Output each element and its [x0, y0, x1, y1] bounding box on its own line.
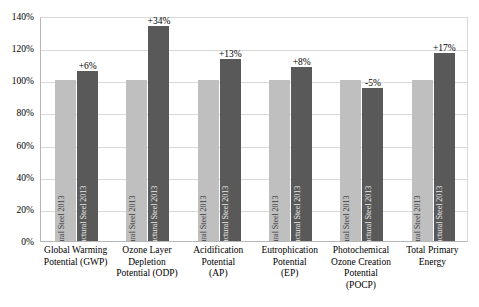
- x-category-label: PhotochemicalOzone CreationPotential(POC…: [321, 245, 400, 291]
- x-category-label-line: Energy: [393, 257, 472, 269]
- y-tick-label: 60%: [17, 141, 34, 151]
- bar-epd-structural-steel[interactable]: EPD Structural Steel 2013: [126, 80, 147, 241]
- bar-group: EPD Structural Steel 2013EPD HDG Structu…: [112, 18, 183, 241]
- x-category-label-line: Eutrophication: [250, 245, 329, 257]
- x-category-label-line: Potential: [179, 257, 258, 269]
- bar-epd-hdg-structural-steel[interactable]: EPD HDG Structural Steel 2013: [77, 71, 98, 241]
- bar-epd-structural-steel[interactable]: EPD Structural Steel 2013: [55, 80, 76, 241]
- x-category-label-line: Ozone Layer: [107, 245, 186, 257]
- bar-epd-hdg-structural-steel[interactable]: EPD HDG Structural Steel 2013: [148, 26, 169, 241]
- bar-epd-structural-steel[interactable]: EPD Structural Steel 2013: [269, 80, 290, 241]
- bar-series-label: EPD HDG Structural Steel 2013: [150, 185, 159, 241]
- x-category-label-line: Total Primary: [393, 245, 472, 257]
- x-category-label-line: (AP): [179, 268, 258, 280]
- bar-series-label: EPD HDG Structural Steel 2013: [222, 185, 231, 241]
- x-category-label: Ozone LayerDepletionPotential (ODP): [107, 245, 186, 280]
- y-tick-label: 20%: [17, 205, 34, 215]
- x-category-label: AcidificationPotential(AP): [179, 245, 258, 280]
- x-category-label-line: Photochemical: [321, 245, 400, 257]
- x-category-label-line: Potential (GWP): [36, 257, 115, 269]
- bar-epd-hdg-structural-steel[interactable]: EPD HDG Structural Steel 2013: [220, 59, 241, 241]
- x-category-label: Total PrimaryEnergy: [393, 245, 472, 268]
- bar-series-label: EPD Structural Steel 2013: [57, 195, 66, 241]
- x-category-label-line: Depletion: [107, 257, 186, 269]
- bar-epd-hdg-structural-steel[interactable]: EPD HDG Structural Steel 2013: [434, 53, 455, 241]
- y-tick-label: 0%: [21, 237, 34, 247]
- bar-data-label: -5%: [365, 78, 381, 88]
- bar-series-label: EPD HDG Structural Steel 2013: [436, 185, 445, 241]
- x-category-label-line: (POCP): [321, 280, 400, 292]
- y-tick-label: 100%: [12, 76, 34, 86]
- bar-epd-hdg-structural-steel[interactable]: EPD HDG Structural Steel 2013: [362, 88, 383, 241]
- bar-data-label: +17%: [433, 43, 456, 53]
- plot-area: EPD Structural Steel 2013EPD HDG Structu…: [40, 17, 468, 242]
- x-category-label-line: Potential: [321, 268, 400, 280]
- y-tick-label: 140%: [12, 12, 34, 22]
- bar-series-label: EPD Structural Steel 2013: [342, 195, 351, 241]
- bar-series-label: EPD HDG Structural Steel 2013: [364, 185, 373, 241]
- bar-group: EPD Structural Steel 2013EPD HDG Structu…: [184, 18, 255, 241]
- bar-chart: 0%20%40%60%80%100%120%140% EPD Structura…: [0, 0, 479, 307]
- x-category-label-line: (EP): [250, 268, 329, 280]
- bar-epd-structural-steel[interactable]: EPD Structural Steel 2013: [412, 80, 433, 241]
- bar-series-label: EPD Structural Steel 2013: [200, 195, 209, 241]
- bar-series-label: EPD Structural Steel 2013: [128, 195, 137, 241]
- bar-series-label: EPD HDG Structural Steel 2013: [79, 185, 88, 241]
- bar-data-label: +6%: [79, 61, 97, 71]
- bar-group: EPD Structural Steel 2013EPD HDG Structu…: [41, 18, 112, 241]
- bar-epd-structural-steel[interactable]: EPD Structural Steel 2013: [340, 80, 361, 241]
- x-category-label: Global WarmingPotential (GWP): [36, 245, 115, 268]
- bar-epd-structural-steel[interactable]: EPD Structural Steel 2013: [198, 80, 219, 241]
- y-tick-label: 120%: [12, 44, 34, 54]
- x-category-label-line: Acidification: [179, 245, 258, 257]
- bar-series-label: EPD HDG Structural Steel 2013: [293, 185, 302, 241]
- bar-group: EPD Structural Steel 2013EPD HDG Structu…: [326, 18, 397, 241]
- y-tick-label: 40%: [17, 173, 34, 183]
- x-category-label-line: Potential (ODP): [107, 268, 186, 280]
- bar-series-label: EPD Structural Steel 2013: [271, 195, 280, 241]
- x-category-label-line: Global Warming: [36, 245, 115, 257]
- x-category-label-line: Potential: [250, 257, 329, 269]
- bar-data-label: +13%: [219, 49, 242, 59]
- y-axis: 0%20%40%60%80%100%120%140%: [0, 0, 38, 307]
- bar-data-label: +34%: [148, 16, 171, 26]
- bar-data-label: +8%: [293, 57, 311, 67]
- x-category-label: EutrophicationPotential(EP): [250, 245, 329, 280]
- bar-groups: EPD Structural Steel 2013EPD HDG Structu…: [41, 18, 467, 241]
- bar-epd-hdg-structural-steel[interactable]: EPD HDG Structural Steel 2013: [291, 67, 312, 241]
- x-axis: Global WarmingPotential (GWP)Ozone Layer…: [40, 245, 468, 307]
- x-category-label-line: Ozone Creation: [321, 257, 400, 269]
- y-tick-label: 80%: [17, 108, 34, 118]
- bar-series-label: EPD Structural Steel 2013: [414, 195, 423, 241]
- bar-group: EPD Structural Steel 2013EPD HDG Structu…: [398, 18, 469, 241]
- bar-group: EPD Structural Steel 2013EPD HDG Structu…: [255, 18, 326, 241]
